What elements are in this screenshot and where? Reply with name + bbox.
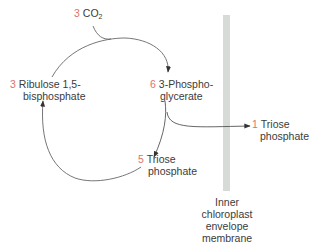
triose-exported-count: 1 xyxy=(252,118,258,130)
triose-exported-line2: phosphate xyxy=(252,130,309,142)
ribulose-line1: Ribulose 1,5- xyxy=(19,78,81,90)
membrane-label-line3: envelope xyxy=(196,220,258,232)
ribulose-count: 3 xyxy=(10,78,16,90)
membrane-label-line1: Inner xyxy=(196,196,258,208)
export-arrow xyxy=(167,112,250,127)
co2-input-arrow xyxy=(93,26,111,39)
co2-label: 3CO2 xyxy=(74,7,103,23)
calvin-cycle-diagram: 3CO2 3Ribulose 1,5- bisphosphate 63-Phos… xyxy=(0,0,315,243)
co2-name: CO xyxy=(83,7,99,19)
membrane-label-line2: chloroplast xyxy=(196,208,258,220)
co2-count: 3 xyxy=(74,7,80,19)
co2-subscript: 2 xyxy=(99,13,103,20)
regeneration-arc xyxy=(42,101,141,181)
ribulose-label: 3Ribulose 1,5- bisphosphate xyxy=(10,78,85,102)
phosphoglycerate-count: 6 xyxy=(150,78,156,90)
carboxylation-arc xyxy=(52,38,168,77)
membrane-label: Inner chloroplast envelope membrane xyxy=(196,196,258,243)
phosphoglycerate-line1: 3-Phospho- xyxy=(159,78,213,90)
triose-exported-line1: Triose xyxy=(261,118,290,130)
triose-recycled-label: 5Triose phosphate xyxy=(138,153,197,177)
triose-recycled-line1: Triose xyxy=(147,153,176,165)
triose-recycled-line2: phosphate xyxy=(138,165,197,177)
phosphoglycerate-line2: glycerate xyxy=(150,90,213,102)
ribulose-line2: bisphosphate xyxy=(10,90,85,102)
reduction-arrow xyxy=(154,101,166,157)
triose-recycled-count: 5 xyxy=(138,153,144,165)
phosphoglycerate-label: 63-Phospho- glycerate xyxy=(150,78,213,102)
membrane-label-line4: membrane xyxy=(196,232,258,243)
triose-exported-label: 1Triose phosphate xyxy=(252,118,309,142)
